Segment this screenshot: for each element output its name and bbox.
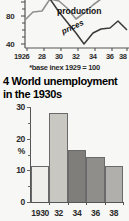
bar-1932 (49, 113, 67, 202)
bar-1934 (68, 150, 86, 202)
bar-y-tick-0 (27, 202, 32, 203)
bar-x-tick-2 (68, 202, 69, 205)
bar-1938 (105, 166, 123, 202)
line-chart-x-label-1926: 1926 (14, 52, 30, 61)
bar-x-tick-1 (49, 202, 50, 205)
line-chart-x-label-32: 32 (72, 52, 80, 61)
bar-y-label-0: 0 (21, 197, 25, 207)
line-chart-y-label-40: 40 (6, 40, 14, 49)
bar-y-axis-unit-percent: % (18, 146, 25, 156)
production-prices-line-chart: 80 40 1926 28 30 32 34 36 38 production … (0, 0, 129, 74)
line-chart-x-label-38: 38 (119, 52, 127, 61)
bar-x-tick-5 (123, 202, 124, 205)
figure-page: 80 40 1926 28 30 32 34 36 38 production … (0, 0, 129, 221)
bar-y-label-20: 20 (16, 134, 25, 144)
line-chart-x-label-28: 28 (38, 52, 46, 61)
bar-x-tick-4 (105, 202, 106, 205)
world-unemployment-bar-chart: 30 20 % 10 0 1930 32 34 36 3 (0, 101, 129, 221)
bar-y-label-10: 10 (16, 165, 25, 175)
line-chart-footnote: *base inex 1929 = 100 (0, 63, 129, 72)
line-chart-y-label-80: 80 (6, 12, 14, 21)
bar-x-label-1930: 1930 (31, 208, 49, 218)
figure-title: 4 World unemployment in the 1930s (3, 75, 127, 100)
bar-chart-bars (31, 107, 123, 202)
bar-chart-plot-area: 30 20 % 10 0 1930 32 34 36 3 (30, 107, 123, 203)
bar-x-label-32: 32 (54, 208, 63, 218)
production-series-label: production (57, 6, 101, 16)
bar-x-label-34: 34 (73, 208, 82, 218)
line-chart-x-label-36: 36 (106, 52, 114, 61)
bar-1936 (86, 157, 104, 202)
line-chart-x-label-34: 34 (89, 52, 97, 61)
bar-y-label-30: 30 (16, 102, 25, 112)
bar-x-tick-3 (86, 202, 87, 205)
bar-x-label-36: 36 (91, 208, 100, 218)
bar-x-label-38: 38 (109, 208, 118, 218)
bar-1930 (31, 166, 49, 202)
line-chart-x-label-30: 30 (55, 52, 63, 61)
